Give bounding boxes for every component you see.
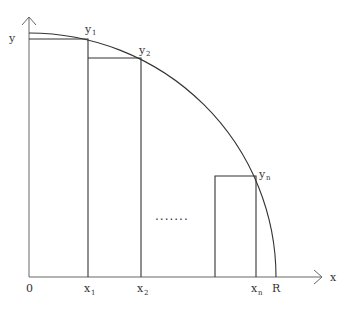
svg-text:n: n (258, 289, 263, 297)
svg-text:n: n (266, 174, 271, 182)
y-point-n: y n (258, 168, 271, 182)
svg-text:x: x (84, 282, 91, 295)
x-tick-2: x 2 (137, 282, 148, 297)
rectangle-2 (88, 58, 141, 277)
x-axis-label: x (330, 271, 337, 284)
x-tick-1: x 1 (84, 282, 95, 297)
radius-label: R (272, 282, 281, 295)
rectangle-n (215, 176, 256, 277)
y-point-2: y 2 (138, 44, 150, 58)
y-point-1: y 1 (84, 23, 96, 37)
ellipsis: ······· (155, 213, 189, 227)
svg-text:y: y (84, 23, 92, 36)
svg-text:2: 2 (146, 50, 150, 58)
origin-label: 0 (26, 282, 33, 295)
svg-text:y: y (138, 44, 146, 57)
svg-text:x: x (251, 282, 258, 295)
rectangle-1 (29, 39, 88, 277)
axes (22, 17, 322, 284)
x-tick-n: x n (251, 282, 263, 297)
svg-text:x: x (137, 282, 144, 295)
svg-text:1: 1 (91, 289, 95, 297)
riemann-sum-diagram: ······· x y 0 x 1 x 2 x n R y 1 y 2 y n (0, 0, 352, 311)
svg-text:y: y (258, 168, 266, 181)
rectangles (29, 39, 256, 277)
svg-text:2: 2 (144, 289, 148, 297)
y-axis-label: y (8, 32, 16, 45)
quarter-circle-curve (29, 33, 276, 277)
svg-text:1: 1 (92, 29, 96, 37)
